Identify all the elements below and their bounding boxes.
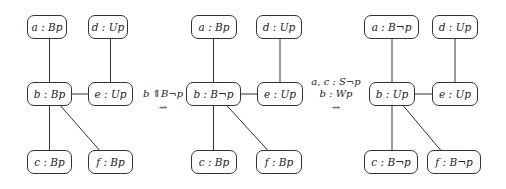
transition-1: b ⇑B¬p ⇝ bbox=[140, 88, 186, 114]
node-left-d: d : Up bbox=[88, 15, 128, 39]
node-middle-b: b : B¬p bbox=[186, 82, 241, 106]
node-left-c: c : Bp bbox=[27, 150, 72, 174]
node-middle-e: e : Up bbox=[257, 82, 303, 106]
node-right-b: b : Up bbox=[369, 82, 415, 106]
node-right-c: c : B¬p bbox=[364, 150, 418, 174]
edge-left-b-f bbox=[61, 106, 100, 150]
transition-2-label-2: b : Wp bbox=[306, 88, 366, 100]
transition-2: a, c : S¬p b : Wp ⇝ bbox=[306, 76, 366, 114]
node-right-e: e : Up bbox=[432, 82, 478, 106]
edge-right-b-f bbox=[404, 106, 441, 150]
node-left-a: a : Bp bbox=[27, 15, 67, 39]
node-right-a: a : B¬p bbox=[364, 15, 419, 39]
squiggle-arrow-icon: ⇝ bbox=[306, 102, 366, 114]
node-left-e: e : Up bbox=[88, 82, 133, 106]
node-middle-c: c : Bp bbox=[191, 150, 237, 174]
node-left-b: b : Bp bbox=[27, 82, 72, 106]
node-middle-a: a : Bp bbox=[191, 15, 237, 39]
node-middle-f: f : Bp bbox=[256, 150, 302, 174]
edge-middle-b-f bbox=[227, 106, 267, 150]
squiggle-arrow-icon: ⇝ bbox=[140, 102, 186, 114]
node-left-f: f : Bp bbox=[88, 150, 133, 174]
transition-2-label-1: a, c : S¬p bbox=[306, 76, 366, 88]
transition-1-label: b ⇑B¬p bbox=[143, 88, 183, 99]
node-right-d: d : Up bbox=[432, 15, 478, 39]
node-middle-d: d : Up bbox=[256, 15, 302, 39]
node-right-f: f : B¬p bbox=[427, 150, 481, 174]
